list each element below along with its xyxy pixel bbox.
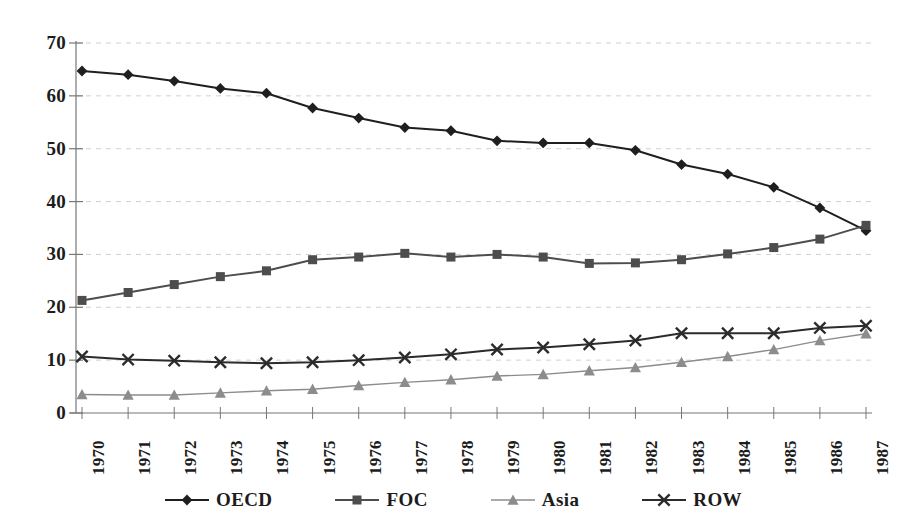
- diamond-marker-icon: [630, 145, 641, 156]
- square-marker-icon: [815, 235, 824, 244]
- diamond-marker-icon: [182, 495, 193, 506]
- x-axis-tick-label: 1985: [781, 440, 801, 475]
- x-axis-tick-label: 1986: [827, 440, 847, 475]
- square-marker-icon: [585, 259, 594, 268]
- square-marker-icon: [308, 255, 317, 264]
- x-axis-tick-label: 1972: [181, 440, 201, 475]
- series-row: [76, 320, 871, 369]
- square-marker-icon: [400, 249, 409, 258]
- diamond-marker-icon: [814, 203, 825, 214]
- y-axis-tick-label: 30: [0, 243, 66, 265]
- y-axis-tick-label: 60: [0, 85, 66, 107]
- diamond-marker-icon: [768, 182, 779, 193]
- diamond-marker-icon: [215, 83, 226, 94]
- chart-legend: OECDFOCAsiaROW: [0, 483, 906, 517]
- x-axis-tick-label: 1983: [689, 440, 709, 475]
- diamond-marker-icon: [77, 66, 88, 77]
- axis-lines: [69, 41, 872, 419]
- x-axis-tick-label: 1973: [227, 440, 247, 475]
- diamond-marker-icon: [353, 113, 364, 124]
- y-axis-tick-label: 50: [0, 138, 66, 160]
- square-marker-icon: [539, 253, 548, 262]
- square-marker-icon: [353, 496, 362, 505]
- diamond-marker-icon: [676, 159, 687, 170]
- y-axis-tick-label: 70: [0, 32, 66, 54]
- x-axis-tick-label: 1987: [873, 440, 893, 475]
- x-axis-tick-label: 1978: [458, 440, 478, 475]
- square-marker-icon: [493, 250, 502, 259]
- square-marker-icon: [334, 492, 380, 508]
- x-axis-tick-label: 1982: [642, 440, 662, 475]
- square-marker-icon: [446, 253, 455, 262]
- x-axis-tick-label: 1976: [366, 440, 386, 475]
- legend-label: Asia: [542, 489, 580, 511]
- line-chart: 010203040506070 197019711972197319741975…: [0, 0, 906, 531]
- y-axis-tick-label: 0: [0, 402, 66, 424]
- legend-item-oecd[interactable]: OECD: [164, 489, 273, 511]
- x-axis-tick-label: 1970: [89, 440, 109, 475]
- legend-label: OECD: [216, 489, 273, 511]
- x-axis-tick-label: 1980: [550, 440, 570, 475]
- x-axis-tick-label: 1979: [504, 440, 524, 475]
- y-axis-tick-label: 40: [0, 191, 66, 213]
- x-axis-tick-label: 1975: [320, 440, 340, 475]
- legend-item-foc[interactable]: FOC: [334, 489, 427, 511]
- square-marker-icon: [862, 221, 871, 230]
- diamond-marker-icon: [538, 138, 549, 149]
- x-axis-tick-label: 1971: [135, 440, 155, 475]
- diamond-marker-icon: [446, 125, 457, 136]
- legend-item-row[interactable]: ROW: [641, 489, 742, 511]
- diamond-marker-icon: [722, 169, 733, 180]
- diamond-marker-icon: [584, 138, 595, 149]
- diamond-marker-icon: [123, 69, 134, 80]
- diamond-marker-icon: [169, 76, 180, 87]
- diamond-marker-icon: [399, 122, 410, 133]
- square-marker-icon: [262, 266, 271, 275]
- triangle-marker-icon: [490, 492, 536, 508]
- diamond-marker-icon: [307, 103, 318, 114]
- diamond-marker-icon: [492, 135, 503, 146]
- square-marker-icon: [216, 272, 225, 281]
- x-axis-tick-label: 1977: [412, 440, 432, 475]
- square-marker-icon: [631, 258, 640, 267]
- square-marker-icon: [78, 296, 87, 305]
- y-axis-tick-label: 10: [0, 349, 66, 371]
- legend-label: ROW: [693, 489, 742, 511]
- cross-marker-icon: [641, 492, 687, 508]
- square-marker-icon: [354, 253, 363, 262]
- series-asia: [76, 328, 871, 400]
- square-marker-icon: [677, 255, 686, 264]
- x-axis-tick-label: 1974: [273, 440, 293, 475]
- square-marker-icon: [723, 249, 732, 258]
- legend-label: FOC: [386, 489, 427, 511]
- y-axis-tick-label: 20: [0, 296, 66, 318]
- x-axis-tick-label: 1981: [596, 440, 616, 475]
- series-oecd: [77, 66, 872, 236]
- diamond-marker-icon: [164, 492, 210, 508]
- square-marker-icon: [769, 243, 778, 252]
- legend-item-asia[interactable]: Asia: [490, 489, 580, 511]
- grid-lines: [76, 43, 872, 360]
- x-axis-tick-label: 1984: [735, 440, 755, 475]
- square-marker-icon: [124, 288, 133, 297]
- square-marker-icon: [170, 280, 179, 289]
- diamond-marker-icon: [261, 88, 272, 99]
- series-foc: [78, 221, 871, 305]
